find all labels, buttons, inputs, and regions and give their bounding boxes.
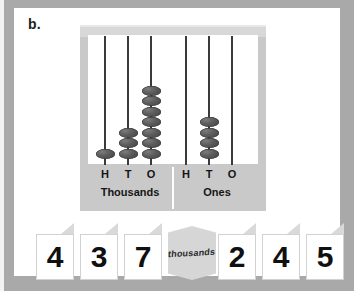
place-value-card-thousands[interactable]: thousands bbox=[168, 226, 216, 280]
group-divider bbox=[172, 167, 174, 209]
column-letter-ones-t: T bbox=[201, 168, 217, 180]
bead bbox=[119, 138, 138, 148]
column-letter-ones-o: O bbox=[224, 168, 240, 180]
card-tab-icon bbox=[61, 223, 74, 234]
bead bbox=[119, 128, 138, 138]
bead bbox=[200, 128, 219, 138]
card-tab-icon bbox=[149, 223, 162, 234]
left-margin-strip bbox=[0, 0, 4, 291]
bead bbox=[142, 86, 161, 96]
digit-card[interactable]: 5 bbox=[306, 234, 344, 280]
bead bbox=[119, 149, 138, 159]
digit-card[interactable]: 4 bbox=[36, 234, 74, 280]
bead bbox=[142, 128, 161, 138]
card-tab-icon bbox=[287, 223, 300, 234]
bead bbox=[142, 117, 161, 127]
item-label: b. bbox=[28, 16, 41, 32]
bead bbox=[142, 149, 161, 159]
digit-card[interactable]: 2 bbox=[218, 234, 256, 280]
group-label-thousands: Thousands bbox=[88, 186, 172, 198]
bead bbox=[142, 96, 161, 106]
card-tab-icon bbox=[331, 223, 344, 234]
bead bbox=[200, 138, 219, 148]
rod-ones-h bbox=[185, 36, 187, 165]
column-letter-thousands-h: H bbox=[97, 168, 113, 180]
rod-thousands-h bbox=[104, 36, 106, 165]
place-value-card-label: thousands bbox=[168, 247, 216, 260]
worksheet-page: b. HTOHTO Thousands Ones 437thousands245 bbox=[14, 8, 340, 276]
card-tab-icon bbox=[105, 223, 118, 234]
rod-ones-o bbox=[231, 36, 233, 165]
digit-card[interactable]: 3 bbox=[80, 234, 118, 280]
digit-card[interactable]: 7 bbox=[124, 234, 162, 280]
column-letter-thousands-t: T bbox=[120, 168, 136, 180]
group-label-ones: Ones bbox=[176, 186, 258, 198]
bead bbox=[200, 149, 219, 159]
bead bbox=[200, 117, 219, 127]
card-tab-icon bbox=[243, 223, 256, 234]
bead bbox=[96, 149, 115, 159]
column-letter-ones-h: H bbox=[178, 168, 194, 180]
number-card-strip: 437thousands245 bbox=[36, 220, 346, 282]
abacus-diagram: HTOHTO Thousands Ones bbox=[80, 25, 266, 211]
bead bbox=[142, 107, 161, 117]
digit-card[interactable]: 4 bbox=[262, 234, 300, 280]
column-letter-thousands-o: O bbox=[143, 168, 159, 180]
bead bbox=[142, 138, 161, 148]
